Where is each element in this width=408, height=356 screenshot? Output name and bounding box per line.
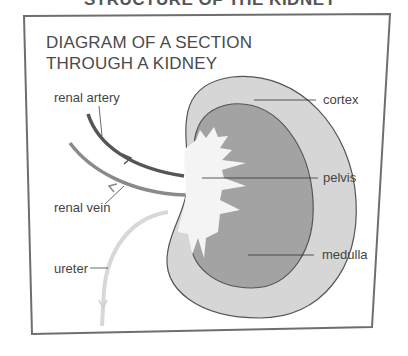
label-renal-vein: renal vein xyxy=(54,200,110,215)
artery-leader-line xyxy=(99,106,102,136)
heading-line-2: THROUGH A KIDNEY xyxy=(46,53,252,74)
renal-vein-vessel xyxy=(70,143,185,195)
label-renal-artery: renal artery xyxy=(54,90,120,105)
label-cortex: cortex xyxy=(323,92,358,107)
renal-artery-vessel xyxy=(88,114,184,176)
label-pelvis: pelvis xyxy=(323,170,356,185)
label-ureter: ureter xyxy=(54,261,88,276)
ureter-vessel xyxy=(102,212,168,326)
label-medulla: medulla xyxy=(322,247,368,262)
diagram-heading: DIAGRAM OF A SECTION THROUGH A KIDNEY xyxy=(46,32,252,74)
vein-arrow-icon xyxy=(109,184,117,192)
heading-line-1: DIAGRAM OF A SECTION xyxy=(46,32,252,53)
